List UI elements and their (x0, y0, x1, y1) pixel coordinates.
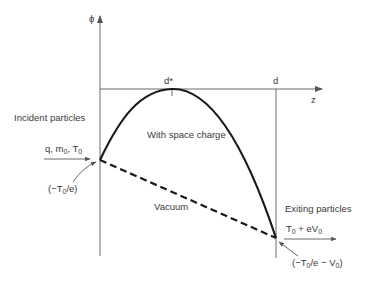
exiting-particles-title: Exiting particles (285, 203, 352, 214)
space-charge-label: With space charge (147, 129, 226, 140)
incident-particles-title: Incident particles (14, 112, 86, 123)
exiting-energy: T0 + eV0 (286, 223, 322, 235)
potential-diagram: ϕ z d* d With space charge Vacuum Incide… (0, 0, 365, 281)
phi-axis-label: ϕ (89, 13, 94, 24)
incident-potential: (−T0/e) (48, 183, 78, 195)
space-charge-curve (100, 89, 276, 238)
exiting-potential-pointer (279, 242, 298, 256)
d-label: d (273, 75, 278, 86)
exiting-potential: (−T0/e − V0) (292, 257, 343, 269)
incident-potential-pointer (73, 162, 96, 182)
z-axis-label: z (311, 94, 316, 105)
incident-params: q, m0, T0 (45, 143, 82, 155)
d-star-label: d* (164, 75, 173, 86)
vacuum-label: Vacuum (154, 201, 188, 212)
